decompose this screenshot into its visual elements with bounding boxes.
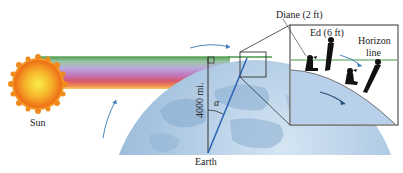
diane-label: Diane (2 ft) (276, 10, 323, 20)
angle-label: α (214, 98, 219, 108)
radius-label: 4000 mi. (195, 82, 205, 118)
rotation-arrow-left (103, 100, 116, 138)
horizon-label-line2: line (366, 48, 381, 58)
earth-label: Earth (195, 157, 217, 167)
rotation-arrow-top (190, 45, 230, 48)
horizon-label-line1: Horizon (358, 36, 391, 46)
sun-label: Sun (30, 118, 46, 128)
ed-label: Ed (6 ft) (310, 28, 344, 38)
earth-curvature-diagram: Sun Earth 4000 mi. α Diane (2 ft) Ed (6 … (0, 0, 403, 173)
sun (8, 54, 68, 114)
